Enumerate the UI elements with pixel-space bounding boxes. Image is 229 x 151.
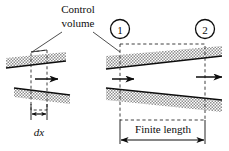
dx-label: dx [34,126,45,138]
station-1-label: 1 [117,24,123,36]
control-volume-callout: Control volume [32,3,120,52]
station-marker-1: 1 [111,20,130,39]
panel-differential-control-volume: dx [6,50,70,138]
diagram-canvas: dx 1 [0,0,229,151]
upper-wall-left [6,52,66,68]
station-2-label: 2 [202,24,208,36]
finite-length-label: Finite length [135,123,191,135]
control-volume-label-line1: Control [61,3,95,15]
panel-finite-control-volume: 1 2 Finite length [106,20,222,145]
leader-line-icon-left [32,32,62,52]
figure-control-volume-diagram: dx 1 [0,0,229,151]
control-volume-label-line2: volume [62,17,95,29]
dx-dimension [31,104,47,120]
station-marker-2: 2 [196,20,215,39]
lower-wall-left [14,88,70,104]
